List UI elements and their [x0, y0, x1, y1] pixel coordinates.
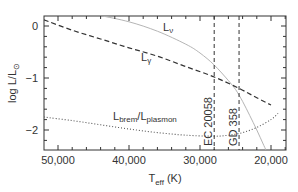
label-brem-sub: brem [119, 115, 138, 124]
ticks [44, 16, 286, 150]
luminosity-chart: 0 −1 −2 50,000 40,000 30,000 20,000 log … [0, 0, 298, 192]
label-plasmon-sub: plasmon [147, 115, 177, 124]
ytick-label-minus1: −1 [25, 72, 38, 84]
label-l-gamma-sub: γ [147, 56, 151, 65]
series-layer [44, 16, 278, 162]
ytick-label-minus2: −2 [25, 124, 38, 136]
xtick-label-20000: 20,000 [254, 154, 288, 166]
ytick-label-0: 0 [32, 20, 38, 32]
label-l-nu: Lν [163, 21, 173, 35]
label-brem-plasmon: Lbrem/Lplasmon [113, 110, 177, 124]
xtick-label-50000: 50,000 [41, 154, 75, 166]
label-plasmon-main: /L [137, 110, 146, 122]
series-l-nu [101, 16, 271, 162]
y-axis-label-main: log L/L [6, 70, 18, 103]
xtick-label-30000: 30,000 [183, 154, 217, 166]
plot-frame [44, 16, 286, 150]
y-axis-label-sub: ⊙ [12, 63, 21, 70]
label-l-nu-sub: ν [169, 26, 173, 35]
x-axis-label-unit: (K) [164, 172, 182, 184]
label-gd-358: GD 358 [227, 108, 239, 146]
label-ec-20058: EC 20058 [202, 97, 214, 146]
label-l-gamma: Lγ [141, 51, 151, 65]
xtick-label-40000: 40,000 [112, 154, 146, 166]
y-axis-label: log L/L⊙ [6, 63, 21, 103]
x-axis-label: Teff (K) [148, 172, 181, 187]
